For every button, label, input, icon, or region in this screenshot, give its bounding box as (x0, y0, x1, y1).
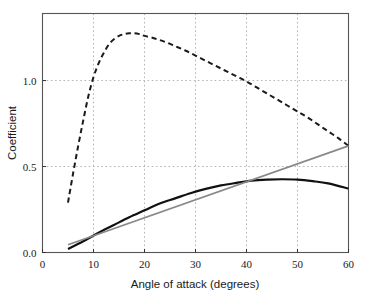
y-tick-label: 0.5 (23, 161, 37, 173)
x-tick-label: 40 (241, 258, 253, 270)
figure-background (0, 0, 366, 296)
x-tick-label: 20 (139, 258, 151, 270)
x-tick-label: 0 (40, 258, 46, 270)
y-axis-label: Coefficient (6, 105, 18, 160)
x-axis-label: Angle of attack (degrees) (131, 278, 260, 290)
x-tick-label: 50 (292, 258, 304, 270)
y-tick-label: 0.0 (23, 247, 37, 259)
x-tick-label: 10 (88, 258, 100, 270)
x-tick-label: 30 (190, 258, 202, 270)
x-tick-label: 60 (343, 258, 355, 270)
y-tick-label: 1.0 (23, 75, 37, 87)
chart-figure: 0102030405060 0.00.51.0 Angle of attack … (0, 0, 366, 296)
